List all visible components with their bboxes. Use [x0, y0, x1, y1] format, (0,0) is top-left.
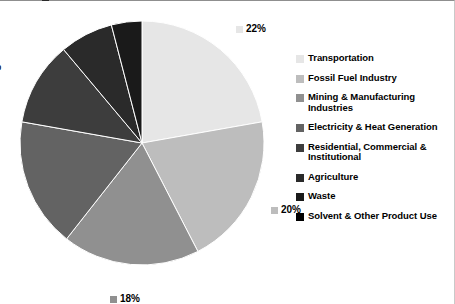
chart-legend: TransportationFossil Fuel IndustryMining…	[296, 53, 454, 230]
legend-item-label: Waste	[308, 191, 335, 202]
pie-slice-percent-label: 7%	[42, 0, 66, 2]
pie-slice-percent-label: 22%	[236, 24, 266, 34]
pie-label-swatch	[236, 26, 243, 33]
legend-swatch	[296, 94, 304, 102]
pie-label-text: 18%	[120, 294, 140, 304]
legend-item[interactable]: Solvent & Other Product Use	[296, 211, 454, 222]
legend-swatch	[296, 124, 304, 132]
legend-swatch	[296, 193, 304, 201]
legend-swatch	[296, 174, 304, 182]
pie-chart-plot-area: 22%20%18%17%11%7%4%0%	[0, 1, 290, 304]
pie-label-swatch	[271, 207, 278, 214]
legend-item-label: Electricity & Heat Generation	[308, 122, 437, 133]
legend-item-label: Transportation	[308, 53, 374, 64]
pie-label-swatch	[110, 296, 117, 303]
legend-item[interactable]: Fossil Fuel Industry	[296, 73, 454, 84]
legend-swatch	[296, 144, 304, 152]
pie-chart-graphic	[6, 19, 282, 289]
legend-item-label: Agriculture	[308, 172, 358, 183]
legend-item-label: Solvent & Other Product Use	[308, 211, 437, 222]
legend-swatch	[296, 75, 304, 83]
pie-slice-percent-label: 11%	[0, 62, 1, 72]
pie-label-text: 22%	[246, 24, 266, 34]
legend-item[interactable]: Transportation	[296, 53, 454, 64]
legend-item-label: Fossil Fuel Industry	[308, 73, 397, 84]
legend-item[interactable]: Electricity & Heat Generation	[296, 122, 454, 133]
legend-item[interactable]: Agriculture	[296, 172, 454, 183]
pie-slice-percent-label: 18%	[110, 294, 140, 304]
chart-frame: 22%20%18%17%11%7%4%0% TransportationFoss…	[0, 0, 455, 304]
pie-label-text: 7%	[52, 0, 66, 2]
legend-item[interactable]: Residential, Commercial & Institutional	[296, 142, 454, 163]
legend-item[interactable]: Waste	[296, 191, 454, 202]
legend-swatch	[296, 55, 304, 63]
legend-item-label: Mining & Manufacturing Industries	[308, 92, 454, 113]
pie-label-text: 11%	[0, 62, 1, 72]
legend-item[interactable]: Mining & Manufacturing Industries	[296, 92, 454, 113]
legend-swatch	[296, 213, 304, 221]
legend-item-label: Residential, Commercial & Institutional	[308, 142, 454, 163]
pie-label-swatch	[42, 0, 49, 1]
